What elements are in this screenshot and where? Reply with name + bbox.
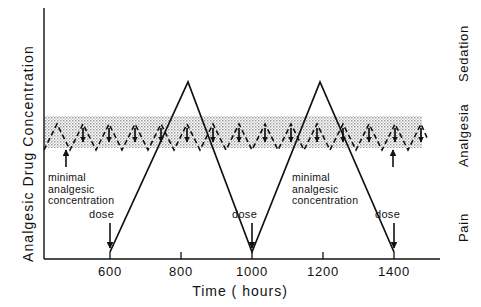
x-tick-label-1400: 1400 [378, 264, 410, 279]
x-axis-title: Time ( hours) [192, 283, 288, 299]
x-tick-label-600: 600 [98, 264, 122, 279]
mac-annotation-right: minimal analgesic concentration [292, 172, 358, 207]
mac-annotation-left-line1: minimal [48, 172, 114, 184]
y-axis-title: Analgesic Drug Concentration [20, 45, 36, 262]
mac-annotation-right-line1: minimal [292, 172, 358, 184]
dose-label-1000: dose [232, 208, 257, 220]
x-tick-label-1200: 1200 [307, 264, 339, 279]
zone-label-analgesia: Analgesia [456, 104, 471, 167]
x-tick-label-800: 800 [169, 264, 193, 279]
dose-label-600: dose [89, 208, 114, 220]
zone-label-sedation: Sedation [456, 25, 471, 82]
figure-container: Analgesic Drug Concentration Sedation An… [0, 0, 481, 307]
zone-label-pain: Pain [456, 213, 471, 242]
x-tick-label-1000: 1000 [236, 264, 268, 279]
mac-annotation-right-line3: concentration [292, 195, 358, 207]
mac-annotation-left: minimal analgesic concentration [48, 172, 114, 207]
mac-annotation-left-line3: concentration [48, 195, 114, 207]
dose-label-1400: dose [375, 208, 400, 220]
chart-canvas [0, 0, 481, 307]
